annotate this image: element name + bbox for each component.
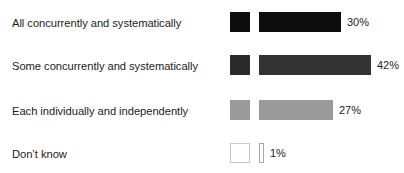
bar-container: 27%: [259, 100, 333, 120]
bar-value-label: 27%: [333, 100, 361, 120]
bar-value-label: 1%: [264, 143, 286, 163]
category-label: Don’t know: [12, 131, 67, 173]
chart-row: All concurrently and systematically 30%: [0, 0, 404, 45]
horizontal-bar-chart: All concurrently and systematically 30% …: [0, 0, 404, 173]
chart-row: Some concurrently and systematically 42%: [0, 43, 404, 88]
bar: [259, 55, 371, 75]
bar-container: 30%: [259, 12, 341, 32]
legend-swatch: [230, 12, 250, 32]
bar: [259, 12, 341, 32]
legend-swatch: [230, 55, 250, 75]
category-label: Each individually and independently: [12, 88, 188, 133]
category-label: All concurrently and systematically: [12, 0, 181, 45]
category-label: Some concurrently and systematically: [12, 43, 198, 88]
bar-container: 1%: [259, 143, 264, 163]
legend-swatch: [230, 143, 250, 163]
chart-row: Don’t know 1%: [0, 131, 404, 173]
bar-container: 42%: [259, 55, 371, 75]
legend-swatch: [230, 100, 250, 120]
bar-value-label: 30%: [341, 12, 369, 32]
bar: [259, 100, 333, 120]
chart-row: Each individually and independently 27%: [0, 88, 404, 133]
bar-value-label: 42%: [371, 55, 399, 75]
